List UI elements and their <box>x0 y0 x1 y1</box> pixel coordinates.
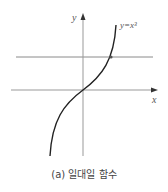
one-to-one-function-figure: y x y=x³ (a) 일대일 함수 <box>0 0 168 192</box>
figure-caption: (a) 일대일 함수 <box>0 166 168 181</box>
function-label: y=x³ <box>119 20 137 30</box>
y-axis-arrow-icon <box>81 13 86 20</box>
y-axis-label: y <box>71 12 77 23</box>
graph: y x y=x³ <box>0 0 168 192</box>
x-axis-label: x <box>151 94 157 105</box>
x-axis-arrow-icon <box>151 88 158 93</box>
intersection-point <box>109 55 112 58</box>
